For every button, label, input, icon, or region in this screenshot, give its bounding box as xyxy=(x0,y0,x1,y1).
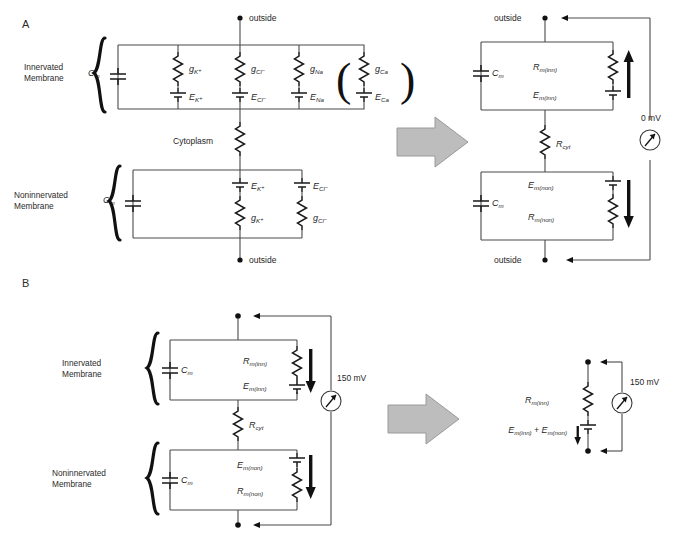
label-innervated-membrane-line2: Membrane xyxy=(24,73,64,83)
terminal-node-top-b xyxy=(235,313,241,319)
label-rm-inn-right: Rm(inn) xyxy=(533,62,557,73)
label-gcl-noninnervated: gCl− xyxy=(313,213,327,224)
battery-ek-innervated xyxy=(170,88,186,102)
label-ecl-innervated: ECl− xyxy=(251,92,266,103)
terminal-node-top-right xyxy=(542,15,547,20)
battery-ecl-innervated xyxy=(232,88,248,102)
paren-close: ) xyxy=(400,54,415,105)
battery-em-inn-right xyxy=(605,86,621,100)
terminal-label-outside-bottom-right: outside xyxy=(494,255,522,265)
transform-arrow-panel-b xyxy=(388,394,459,444)
label-rcyt-right: Rcyt xyxy=(556,139,571,150)
current-arrow-down-non xyxy=(624,180,634,228)
brace-innervated-membrane-b xyxy=(147,333,158,404)
panel-b-right-circuit: Rm(inn) Em(inn) + Em(non) 150 mV xyxy=(508,359,659,454)
battery-em-non-right xyxy=(605,176,621,190)
resistor-cytoplasm xyxy=(236,122,245,156)
battery-em-inn-b xyxy=(289,380,305,394)
terminal-node-bottom-b-right xyxy=(585,448,591,454)
terminal-node-bottom-right xyxy=(542,257,547,262)
battery-ek-noninnervated xyxy=(232,178,248,192)
resistor-gca-innervated xyxy=(360,52,369,86)
meter-value-panel-a: 0 mV xyxy=(641,113,661,123)
figure-canvas: A outside Cm gK+ EK+ xyxy=(0,0,679,537)
label-cytoplasm: Cytoplasm xyxy=(173,136,213,146)
label-cm-non-b: Cm xyxy=(181,475,193,486)
battery-em-non-b xyxy=(289,453,305,467)
panel-letter-B: B xyxy=(22,277,29,289)
current-arrow-down-non-b xyxy=(306,455,316,499)
resistor-rcyt-right xyxy=(541,125,550,159)
label-ek-innervated: EK+ xyxy=(189,92,202,103)
terminal-node-bottom-b xyxy=(235,522,241,528)
label-noninnervated-membrane-line2: Membrane xyxy=(14,201,54,211)
resistor-rm-non-b xyxy=(293,468,302,502)
transform-arrow-panel-a xyxy=(397,117,468,167)
current-arrow-down-b-right xyxy=(574,426,581,445)
resistor-gcl-noninnervated xyxy=(298,196,307,230)
voltmeter-panel-a xyxy=(640,130,660,150)
terminal-node-top-b-right xyxy=(585,359,591,365)
panel-letter-A: A xyxy=(22,18,30,30)
panel-b-left-circuit: Cm Rm(inn) Em(inn) Innervated Membrane R… xyxy=(52,313,367,528)
label-rm-non-b: Rm(non) xyxy=(237,486,263,497)
label-noninnervated-membrane-b-line2: Membrane xyxy=(52,479,92,489)
feedback-arrow-top-b xyxy=(253,313,260,319)
battery-sum-b-right xyxy=(580,420,596,434)
resistor-gna-innervated xyxy=(295,52,304,86)
resistor-gk-noninnervated xyxy=(236,196,245,230)
label-em-non-b: Em(non) xyxy=(237,460,263,471)
label-rm-inn-b: Rm(inn) xyxy=(243,356,267,367)
resistor-rm-inn-b-right xyxy=(584,382,593,416)
label-ena-innervated: ENa xyxy=(310,92,324,103)
voltmeter-panel-b-left xyxy=(321,391,341,411)
battery-ena-innervated xyxy=(291,88,307,102)
branch-gk-ek-innervated: gK+ EK+ xyxy=(170,45,202,109)
resistor-rm-inn-b xyxy=(293,346,302,380)
label-em-inn-right: Em(inn) xyxy=(533,90,557,101)
label-innervated-membrane-b-line1: Innervated xyxy=(62,358,102,368)
battery-eca-innervated xyxy=(356,88,372,102)
feedback-arrow-bottom xyxy=(566,257,573,263)
label-eca-innervated: ECa xyxy=(375,92,389,103)
feedback-arrow-bottom-b-right xyxy=(600,448,607,454)
brace-noninnervated-membrane-b xyxy=(147,443,158,514)
label-cm-inn-right: Cm xyxy=(492,68,504,79)
label-em-non-right: Em(non) xyxy=(528,180,554,191)
label-battery-sum-b-right: Em(inn) + Em(non) xyxy=(508,425,567,436)
label-cm-inn-b: Cm xyxy=(181,365,193,376)
label-gcl-innervated: gCl− xyxy=(251,64,265,75)
terminal-label-outside-bottom: outside xyxy=(249,255,277,265)
label-ek-noninnervated: EK+ xyxy=(251,181,264,192)
meter-value-panel-b-right: 150 mV xyxy=(630,377,660,387)
current-arrow-up-inn xyxy=(624,50,634,98)
terminal-label-outside-top-right: outside xyxy=(494,13,522,23)
label-em-inn-b: Em(inn) xyxy=(243,381,267,392)
label-ecl-noninnervated: ECl− xyxy=(313,181,328,192)
label-gk-innervated: gK+ xyxy=(189,64,201,75)
panel-a-right-circuit: outside Cm Rm(inn) Em(inn) xyxy=(473,13,661,265)
label-noninnervated-membrane-b-line1: Noninnervated xyxy=(52,468,106,478)
resistor-gcl-innervated xyxy=(236,52,245,86)
meter-value-panel-b-left: 150 mV xyxy=(337,373,367,383)
label-rm-non-right: Rm(non) xyxy=(528,212,554,223)
panel-a-left-circuit: outside Cm gK+ EK+ xyxy=(14,13,415,265)
resistor-gk-innervated xyxy=(174,52,183,86)
label-gk-noninnervated: gK+ xyxy=(251,213,263,224)
feedback-arrow-top xyxy=(561,15,568,21)
terminal-node-bottom xyxy=(237,257,242,262)
feedback-arrow-top-b-right xyxy=(600,359,607,365)
paren-open: ( xyxy=(336,54,351,105)
label-innervated-membrane-b-line2: Membrane xyxy=(62,369,102,379)
resistor-rcyt-b xyxy=(234,407,243,441)
label-rm-inn-b-right: Rm(inn) xyxy=(525,395,549,406)
resistor-rm-non-right xyxy=(609,194,618,228)
branch-ek-gk-noninnervated: EK+ gK+ xyxy=(232,170,264,238)
branch-gcl-ecl-innervated: gCl− ECl− xyxy=(232,45,266,109)
current-arrow-down-inn-b xyxy=(306,349,316,393)
label-innervated-membrane-line1: Innervated xyxy=(24,62,64,72)
terminal-label-outside-top: outside xyxy=(249,13,277,23)
resistor-rm-inn-right xyxy=(609,50,618,84)
circuit-figure: A outside Cm gK+ EK+ xyxy=(0,0,679,537)
label-gna-innervated: gNa xyxy=(310,64,323,75)
